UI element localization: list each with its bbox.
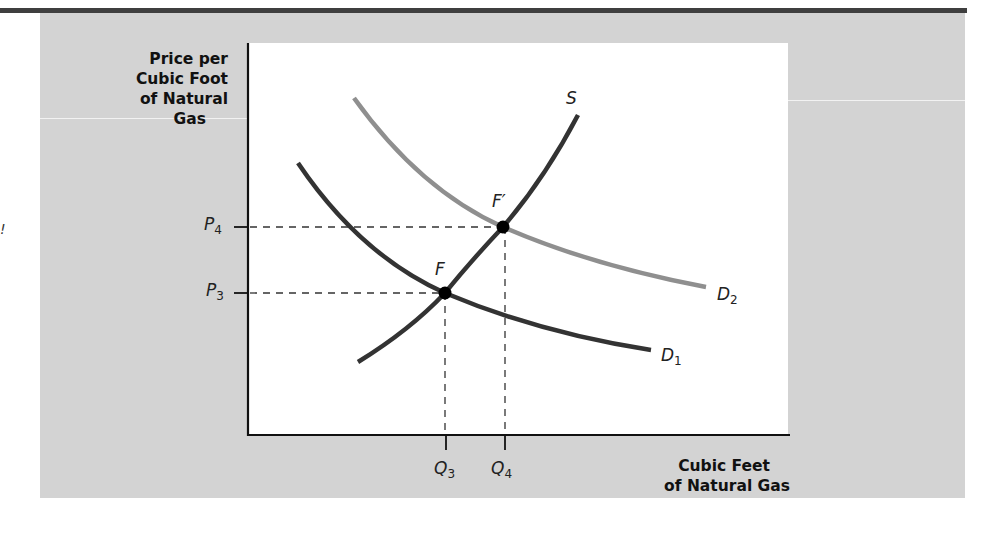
demand-d1-label: D1 (661, 345, 682, 368)
q3-label: Q3 (434, 458, 455, 481)
supply-label: S (566, 88, 577, 108)
demand-d2-label: D2 (717, 284, 738, 307)
equilibrium-point-f (439, 287, 452, 300)
point-f-prime-label: F′ (492, 191, 506, 211)
p3-label: P3 (206, 280, 224, 303)
supply-curve-s (358, 115, 578, 362)
equilibrium-point-f-prime (497, 221, 510, 234)
p4-label: P4 (204, 214, 222, 237)
guide-lines (250, 227, 505, 434)
point-f-label: F (435, 259, 445, 279)
q4-label: Q4 (491, 458, 512, 481)
